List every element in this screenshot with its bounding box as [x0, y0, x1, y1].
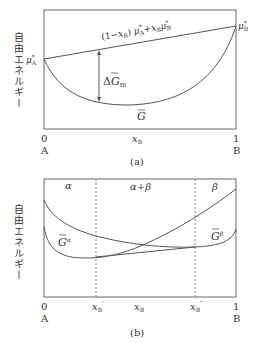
- g-curve-label: G: [137, 110, 146, 123]
- x-end-label: 1: [233, 301, 239, 312]
- panel-b-ylabel: 自由エネルギー: [13, 203, 24, 281]
- end-a-label: A: [40, 313, 49, 324]
- free-energy-diagram: 自由エネルギー μ*A μ*B (1−xB) μ*A+xBμ*B ΔΔGGm G…: [0, 0, 256, 343]
- region-beta-label: β: [211, 181, 218, 192]
- delta-g-label: ΔΔGGm: [103, 75, 127, 89]
- arrow-head-down-icon: [97, 97, 101, 102]
- panel-b-caption: (b): [130, 327, 144, 338]
- x-axis-label: xB: [134, 301, 145, 313]
- end-b-label: B: [233, 313, 240, 324]
- panel-b: 自由エネルギー α α+β β Gα Gβ 0 1 xB′ xB xB″ A B…: [13, 179, 241, 338]
- panel-a-caption: (a): [130, 156, 144, 167]
- end-b-label: B: [233, 145, 240, 156]
- x-end-label: 1: [233, 133, 239, 144]
- panel-b-frame: [44, 179, 236, 297]
- x-prime-label: xB′: [92, 300, 104, 313]
- g-beta-curve: [44, 200, 236, 247]
- mu-b-label: μ*B: [238, 19, 249, 32]
- g-beta-label: Gβ: [211, 230, 224, 243]
- common-tangent-line: [96, 247, 195, 257]
- x-dprime-label: xB″: [190, 300, 203, 313]
- x-start-label: 0: [41, 301, 47, 312]
- region-alpha-label: α: [65, 180, 72, 191]
- region-mix-label: α+β: [130, 181, 151, 192]
- mu-a-label: μ*A: [26, 53, 37, 66]
- x-axis-label: xB: [132, 133, 143, 145]
- panel-a-ylabel: 自由エネルギー: [13, 31, 24, 109]
- g-curve: [44, 26, 236, 105]
- arrow-head-up-icon: [97, 50, 101, 55]
- g-alpha-curve: [44, 189, 236, 258]
- panel-a: 自由エネルギー μ*A μ*B (1−xB) μ*A+xBμ*B ΔΔGGm G…: [13, 10, 249, 167]
- g-alpha-label: Gα: [58, 236, 71, 249]
- x-start-label: 0: [41, 133, 47, 144]
- end-a-label: A: [40, 145, 49, 156]
